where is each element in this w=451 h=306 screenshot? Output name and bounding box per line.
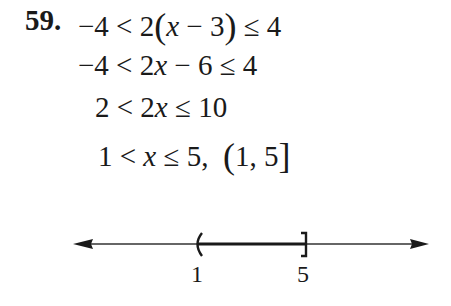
tick-label-5: 5 — [297, 262, 309, 286]
right-arrow-icon — [410, 239, 429, 249]
left-arrow-icon — [73, 239, 93, 249]
number-line — [0, 0, 451, 306]
tick-label-1: 1 — [191, 262, 203, 286]
